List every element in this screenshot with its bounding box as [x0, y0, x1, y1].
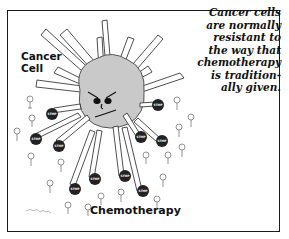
- svg-text:STOP: STOP: [137, 135, 147, 139]
- stop-sign-icon: STOP: [137, 185, 149, 197]
- figure-icon: [165, 152, 171, 164]
- chemotherapy-label: Chemotherapy: [90, 204, 181, 217]
- stop-sign-icon: STOP: [30, 133, 42, 145]
- stop-sign-icon: STOP: [152, 99, 164, 111]
- svg-text:STOP: STOP: [71, 187, 81, 191]
- cancer-cell-label-line2: Cell: [21, 62, 62, 74]
- stop-sign-icon: STOP: [89, 173, 101, 185]
- svg-text:STOP: STOP: [158, 139, 168, 143]
- stop-sign-icon: STOP: [119, 170, 131, 182]
- caption-line: the way that: [161, 44, 281, 57]
- svg-text:STOP: STOP: [55, 144, 65, 148]
- caption-line: ally given.: [161, 81, 281, 94]
- stop-sign-icon: STOP: [46, 108, 58, 120]
- stop-sign-icon: STOP: [53, 140, 65, 152]
- caption-line: are normally: [161, 19, 281, 32]
- stop-sign-icon: STOP: [156, 135, 168, 147]
- figure-icon: [14, 128, 20, 141]
- cancer-cell-label-line1: Cancer: [21, 50, 62, 62]
- figure-icon: [160, 174, 166, 187]
- figure-icon: [174, 97, 180, 110]
- caption-line: is tradition-: [161, 69, 281, 82]
- figure-icon: [143, 152, 149, 164]
- figure-icon: [65, 202, 71, 214]
- figure-icon: [188, 114, 194, 127]
- cancer-cell-label: Cancer Cell: [21, 50, 62, 74]
- figure-icon: [118, 189, 124, 202]
- svg-text:STOP: STOP: [48, 112, 58, 116]
- figure-icon: [179, 144, 185, 157]
- figure-icon: [176, 124, 182, 137]
- caption-text: Cancer cells are normally resistant to t…: [161, 6, 281, 94]
- svg-text:STOP: STOP: [32, 137, 42, 141]
- stop-sign-icon: STOP: [69, 183, 81, 195]
- figure-icon: [28, 153, 34, 166]
- figure-icon: [29, 115, 35, 127]
- stop-sign-icon: STOP: [135, 131, 147, 143]
- svg-text:STOP: STOP: [91, 177, 101, 181]
- figure-icon: [47, 180, 53, 193]
- figure-icon: [27, 96, 33, 108]
- caption-line: chemotherapy: [161, 56, 281, 69]
- figure-icon: [58, 159, 64, 172]
- caption-line: Cancer cells: [161, 6, 281, 19]
- svg-text:STOP: STOP: [154, 103, 164, 107]
- artist-signature: [26, 210, 51, 214]
- svg-text:STOP: STOP: [121, 174, 131, 178]
- svg-text:STOP: STOP: [139, 189, 149, 193]
- caption-line: resistant to: [161, 31, 281, 44]
